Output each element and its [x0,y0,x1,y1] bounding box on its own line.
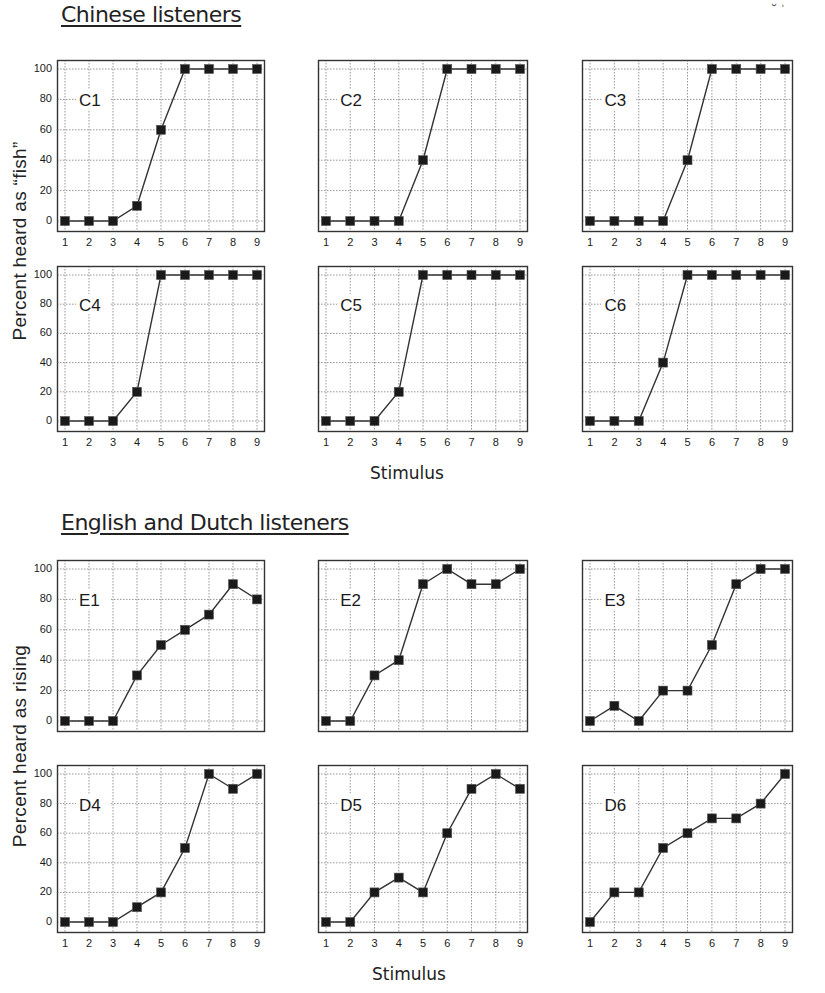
panel-label: C1 [79,91,101,110]
data-point-marker [756,271,765,280]
x-tick-label: 8 [493,236,499,248]
x-tick-label: 2 [347,236,353,248]
data-point-marker [683,271,692,280]
data-point-marker [659,217,668,226]
x-tick-label: 8 [758,937,764,949]
data-point-marker [732,814,741,823]
data-point-marker [610,417,619,426]
data-point-marker [781,65,790,74]
y-tick-label: 60 [40,123,52,135]
panel-c4: C4020406080100123456789 [57,266,265,436]
data-point-marker [634,417,643,426]
data-point-marker [181,625,190,634]
data-point-marker [756,799,765,808]
x-tick-label: 4 [396,436,402,448]
data-point-marker [491,271,500,280]
x-tick-label: 7 [469,937,475,949]
x-tick-label: 7 [206,236,212,248]
data-point-marker [181,271,190,280]
data-point-marker [253,65,262,74]
data-point-marker [85,417,94,426]
x-tick-label: 6 [709,436,715,448]
x-tick-label: 9 [517,937,523,949]
x-tick-label: 2 [86,236,92,248]
x-tick-label: 2 [86,937,92,949]
x-tick-label: 3 [372,236,378,248]
x-tick-label: 1 [323,937,329,949]
x-tick-label: 1 [587,436,593,448]
x-tick-label: 2 [611,937,617,949]
data-point-marker [443,271,452,280]
panel-label: E2 [340,591,361,610]
data-point-marker [516,271,525,280]
panel-label: C2 [340,91,362,110]
x-tick-label: 8 [493,436,499,448]
x-tick-label: 5 [685,436,691,448]
data-point-marker [732,65,741,74]
data-point-marker [229,784,238,793]
panel-label: C4 [79,296,101,315]
panel-e2: E2 [318,560,528,736]
y-axis-label-chinese: Percent heard as “fish” [9,111,31,371]
data-point-marker [659,686,668,695]
x-tick-label: 5 [158,436,164,448]
data-point-marker [109,417,118,426]
data-point-marker [133,671,142,680]
x-tick-label: 6 [182,436,188,448]
data-point-marker [133,903,142,912]
x-tick-label: 1 [323,236,329,248]
data-point-marker [85,217,94,226]
data-point-marker [109,918,118,927]
data-point-marker [634,717,643,726]
x-tick-label: 4 [134,436,140,448]
x-tick-label: 4 [396,937,402,949]
data-point-marker [419,156,428,165]
data-point-marker [394,656,403,665]
panel-e1: E1020406080100 [57,560,265,736]
x-tick-label: 8 [230,436,236,448]
x-tick-label: 5 [420,236,426,248]
y-tick-label: 60 [40,326,52,338]
x-tick-label: 4 [134,236,140,248]
data-point-marker [419,580,428,589]
data-point-marker [610,888,619,897]
data-point-marker [205,770,214,779]
data-point-marker [370,217,379,226]
x-tick-label: 1 [323,436,329,448]
x-tick-label: 7 [469,436,475,448]
data-point-marker [61,717,70,726]
x-tick-label: 2 [347,436,353,448]
data-point-marker [253,770,262,779]
x-tick-label: 3 [110,436,116,448]
data-point-marker [467,580,476,589]
x-tick-label: 5 [685,236,691,248]
data-point-marker [253,271,262,280]
data-point-marker [781,770,790,779]
y-tick-label: 60 [40,623,52,635]
x-tick-label: 9 [517,436,523,448]
data-point-marker [205,271,214,280]
y-tick-label: 100 [34,268,52,280]
x-tick-label: 5 [158,937,164,949]
x-tick-label: 4 [134,937,140,949]
data-point-marker [781,271,790,280]
y-tick-label: 20 [40,184,52,196]
data-point-marker [85,717,94,726]
data-point-marker [683,829,692,838]
panel-d4: D4020406080100123456789 [57,765,265,937]
data-point-marker [707,814,716,823]
x-tick-label: 1 [587,937,593,949]
data-point-marker [394,217,403,226]
x-axis-label-chinese: Stimulus [370,463,444,483]
data-point-marker [109,717,118,726]
data-point-marker [370,671,379,680]
x-tick-label: 5 [420,937,426,949]
y-tick-label: 20 [40,385,52,397]
x-tick-label: 6 [182,236,188,248]
data-point-marker [61,417,70,426]
data-point-marker [346,417,355,426]
section-title-english-dutch: English and Dutch listeners [61,510,349,535]
data-point-marker [634,217,643,226]
data-point-marker [419,271,428,280]
panel-d6: D6123456789 [582,765,793,937]
